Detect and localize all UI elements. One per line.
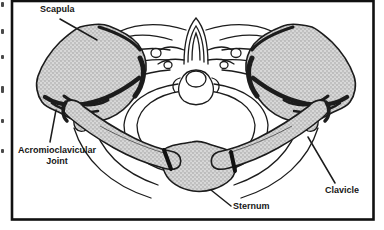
page-edge-text-remnants: [1, 2, 4, 153]
acromioclavicular-joint-label-line2: Joint: [12, 156, 102, 167]
figure-canvas: Scapula Acromioclavicular Joint Sternum …: [0, 0, 384, 230]
sternum-label: Sternum: [233, 201, 270, 211]
acromioclavicular-joint-label-line1: Acromioclavicular: [12, 145, 102, 156]
scapula-label: Scapula: [40, 4, 75, 14]
anatomy-illustration: [0, 0, 384, 230]
clavicle-label: Clavicle: [325, 185, 359, 195]
acromioclavicular-joint-label: Acromioclavicular Joint: [12, 145, 102, 166]
